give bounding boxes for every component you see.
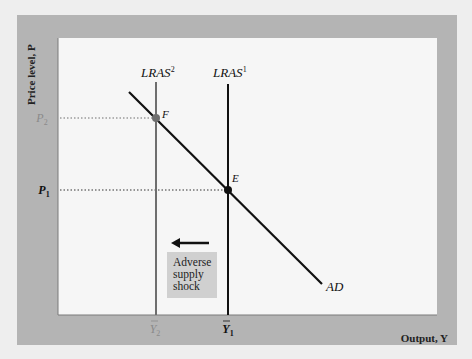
point-e-label: E — [231, 172, 239, 184]
point-e — [224, 186, 232, 194]
point-f-label: F — [161, 108, 169, 120]
plot-area — [58, 38, 437, 315]
figure-stage: Price level, P Output, Y F E LRAS2 LRA — [0, 0, 472, 359]
lras1-label: LRAS1 — [212, 65, 247, 80]
lras2-label: LRAS2 — [140, 65, 175, 80]
as-ad-diagram: Price level, P Output, Y F E LRAS2 LRA — [0, 0, 472, 359]
y-axis-title: Price level, P — [25, 44, 37, 105]
x-axis-title: Output, Y — [401, 332, 448, 344]
point-f — [152, 114, 160, 122]
ad-label: AD — [325, 279, 344, 294]
